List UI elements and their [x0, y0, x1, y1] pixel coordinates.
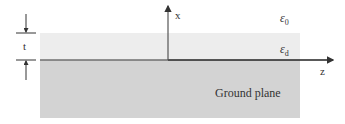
slab-diagram: x z t ε0 εd Ground plane — [0, 0, 345, 124]
z-axis-label: z — [320, 66, 325, 77]
epsilon-0-subscript: 0 — [285, 18, 289, 27]
x-axis-label: x — [175, 10, 181, 21]
epsilon-d-label: εd — [280, 43, 289, 58]
dielectric-layer — [40, 33, 300, 60]
epsilon-d-subscript: d — [285, 49, 289, 58]
ground-plane-label: Ground plane — [215, 87, 281, 99]
diagram-graphic — [0, 0, 345, 124]
epsilon-0-label: ε0 — [280, 12, 289, 27]
thickness-label: t — [23, 41, 26, 52]
